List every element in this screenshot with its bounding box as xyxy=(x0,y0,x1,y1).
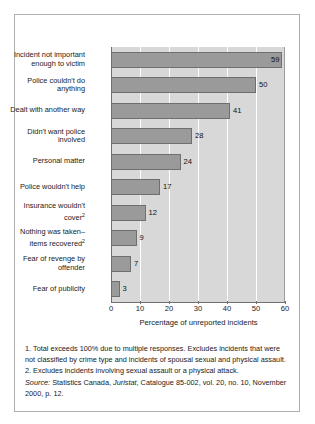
footnote-1: 1. Total exceeds 100% due to multiple re… xyxy=(25,343,291,365)
footnote-marker: 2 xyxy=(82,238,85,244)
figure-notes: 1. Total exceeds 100% due to multiple re… xyxy=(25,343,291,399)
category-label-line1: Dealt with another way xyxy=(10,105,85,114)
category-label: Nothing was taken–items recovered2 xyxy=(1,228,85,249)
bar[interactable] xyxy=(111,77,256,93)
bar[interactable] xyxy=(111,128,192,144)
bar[interactable] xyxy=(111,154,181,170)
table-row: Police wouldn't help 17 xyxy=(15,175,301,201)
table-row: Fear of publicity 3 xyxy=(15,277,301,303)
footnote-marker: 2 xyxy=(82,212,85,218)
bar-value-label: 12 xyxy=(149,208,157,217)
bar[interactable] xyxy=(111,179,160,195)
bar-chart: Incident not importantenough to victim 5… xyxy=(15,15,301,301)
source-line: Source: Statistics Canada, Juristat, Cat… xyxy=(25,377,291,399)
category-label-line1: Nothing was taken– xyxy=(20,227,85,236)
category-label-line2: items recovered xyxy=(30,239,83,248)
bar-track: 3 xyxy=(111,281,285,297)
table-row: Didn't want policeinvolved 28 xyxy=(15,124,301,150)
bar-track: 28 xyxy=(111,128,285,144)
category-label-line2: offender xyxy=(58,263,85,272)
category-label: Personal matter xyxy=(1,157,85,166)
category-label: Fear of revenge byoffender xyxy=(1,255,85,272)
x-tick-60: 60 xyxy=(281,304,289,313)
table-row: Insurance wouldn'tcover2 12 xyxy=(15,200,301,226)
category-label-line1: Police wouldn't help xyxy=(20,182,85,191)
x-tick-0: 0 xyxy=(109,304,113,313)
bar-track: 17 xyxy=(111,179,285,195)
bar-track: 24 xyxy=(111,154,285,170)
bar-track: 41 xyxy=(111,103,285,119)
category-label: Insurance wouldn'tcover2 xyxy=(1,202,85,223)
bar-track: 59 xyxy=(111,52,285,68)
category-label-line2: involved xyxy=(58,135,85,144)
bar-rows: Incident not importantenough to victim 5… xyxy=(15,47,301,302)
category-label-line1: Fear of publicity xyxy=(33,284,85,293)
x-tick-40: 40 xyxy=(223,304,231,313)
source-label: Source: xyxy=(25,378,50,387)
category-label-line2: cover xyxy=(64,213,82,222)
bar-track: 9 xyxy=(111,230,285,246)
table-row: Police couldn't doanything 50 xyxy=(15,73,301,99)
category-label: Fear of publicity xyxy=(1,285,85,294)
category-label: Police couldn't doanything xyxy=(1,77,85,94)
category-label: Dealt with another way xyxy=(1,106,85,115)
table-row: Nothing was taken–items recovered2 9 xyxy=(15,226,301,252)
category-label-line1: Personal matter xyxy=(33,156,85,165)
bar[interactable] xyxy=(111,281,120,297)
category-label: Incident not importantenough to victim xyxy=(1,51,85,68)
category-label-line2: anything xyxy=(57,84,85,93)
bar-value-label: 24 xyxy=(184,157,192,166)
bar-value-label: 17 xyxy=(163,182,171,191)
bar-value-label: 50 xyxy=(259,80,267,89)
x-tick-50: 50 xyxy=(252,304,260,313)
x-tick-30: 30 xyxy=(194,304,202,313)
bar-track: 50 xyxy=(111,77,285,93)
figure-panel: Incident not importantenough to victim 5… xyxy=(14,14,300,412)
x-axis-ticks: 0 10 20 30 40 50 60 xyxy=(111,304,286,318)
x-tick-10: 10 xyxy=(136,304,144,313)
bar-value-label: 41 xyxy=(233,106,241,115)
bar-value-label: 28 xyxy=(195,131,203,140)
x-axis-label: Percentage of unreported incidents xyxy=(111,318,286,327)
bar[interactable] xyxy=(111,230,137,246)
bar-track: 7 xyxy=(111,256,285,272)
footnote-2: 2. Excludes incidents involving sexual a… xyxy=(25,365,291,376)
category-label-line1: Insurance wouldn't xyxy=(24,201,85,210)
table-row: Fear of revenge byoffender 7 xyxy=(15,251,301,277)
category-label-line2: enough to victim xyxy=(31,59,85,68)
bar-value-label: 3 xyxy=(123,284,127,293)
bar[interactable] xyxy=(111,103,230,119)
bar[interactable] xyxy=(111,205,146,221)
source-publication: Juristat xyxy=(113,378,137,387)
table-row: Personal matter 24 xyxy=(15,149,301,175)
category-label: Didn't want policeinvolved xyxy=(1,128,85,145)
bar[interactable] xyxy=(111,52,282,68)
bar-value-label: 7 xyxy=(134,259,138,268)
table-row: Incident not importantenough to victim 5… xyxy=(15,47,301,73)
table-row: Dealt with another way 41 xyxy=(15,98,301,124)
x-tick-20: 20 xyxy=(165,304,173,313)
bar-value-label: 9 xyxy=(140,233,144,242)
source-text-a: Statistics Canada, xyxy=(50,378,113,387)
bar[interactable] xyxy=(111,256,131,272)
category-label: Police wouldn't help xyxy=(1,183,85,192)
bar-value-label: 59 xyxy=(271,55,279,64)
bar-track: 12 xyxy=(111,205,285,221)
